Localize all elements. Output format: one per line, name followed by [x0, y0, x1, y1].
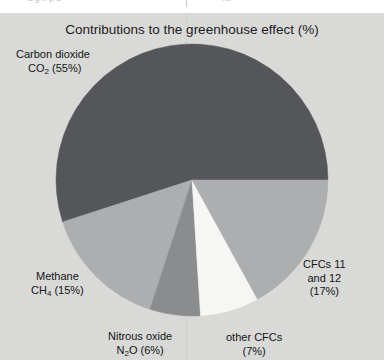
page-header-remnant-left-text: a g n p a [28, 0, 61, 3]
pie-label-cfcs-11-and-12: CFCs 11 and 12 (17%) [303, 258, 346, 299]
page-header-divider [186, 0, 187, 7]
pie-slices [56, 44, 328, 316]
screenshot-root: a g n p a nd Contributions to the greenh… [0, 0, 384, 360]
pie-label-carbon-dioxide-line2: CO2 (55%) [16, 62, 90, 78]
pie-label-methane-percent: (15%) [51, 284, 83, 296]
pie-label-cfcs-11-and-12-line2: and 12 [303, 272, 346, 286]
pie-label-nitrous-oxide-line2: N2O (6%) [108, 344, 172, 360]
pie-label-nitrous-oxide-percent: O (6%) [129, 344, 164, 356]
pie-label-other-cfcs-line1: other CFCs [226, 331, 282, 345]
pie-label-methane-formula: CH [31, 284, 47, 296]
pie-label-nitrous-oxide: Nitrous oxide N2O (6%) [108, 330, 172, 360]
pie-label-methane: Methane CH4 (15%) [31, 270, 84, 300]
pie-label-other-cfcs: other CFCs (7%) [226, 331, 282, 358]
pie-label-cfcs-11-and-12-line1: CFCs 11 [303, 258, 346, 272]
page-header-remnant: a g n p a nd [0, 0, 384, 13]
pie-label-carbon-dioxide-percent: (55%) [49, 62, 81, 74]
pie-label-cfcs-11-and-12-line3: (17%) [303, 285, 346, 299]
pie-label-carbon-dioxide-formula: CO [28, 62, 45, 74]
pie-label-other-cfcs-line2: (7%) [226, 345, 282, 359]
figure-panel: Contributions to the greenhouse effect (… [0, 13, 384, 360]
pie-label-carbon-dioxide-line1: Carbon dioxide [16, 48, 90, 62]
pie-label-methane-line1: Methane [31, 270, 84, 284]
pie-label-carbon-dioxide: Carbon dioxide CO2 (55%) [16, 48, 90, 78]
pie-label-nitrous-oxide-line1: Nitrous oxide [108, 330, 172, 344]
pie-label-methane-line2: CH4 (15%) [31, 284, 84, 300]
page-header-remnant-right-text: nd [222, 0, 231, 3]
